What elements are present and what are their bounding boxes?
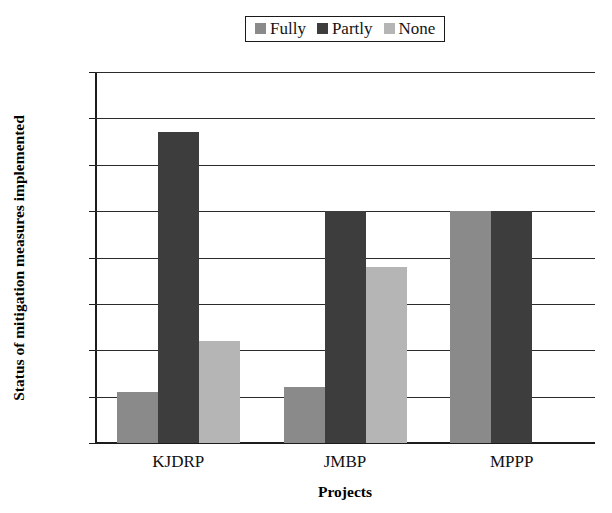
y-axis-title-text: Status of mitigation measures implemente…	[10, 115, 28, 401]
legend-entry-none: None	[384, 20, 436, 37]
y-axis-title: Status of mitigation measures implemente…	[8, 72, 30, 443]
category-label-kjdrp: KJDRP	[152, 452, 204, 472]
category-label-mppp: MPPP	[490, 452, 533, 472]
bar-chart-figure: Fully Partly None Status of mitigation m…	[0, 0, 612, 513]
y-axis-tick	[89, 443, 95, 444]
category-label-jmbp: JMBP	[324, 452, 367, 472]
bar-jmbp-none	[366, 267, 407, 443]
bar-kjdrp-none	[199, 341, 240, 443]
bars-layer	[95, 72, 595, 443]
bar-kjdrp-partly	[158, 132, 199, 443]
bar-jmbp-fully	[284, 387, 325, 443]
bar-mppp-fully	[450, 211, 491, 443]
bar-kjdrp-fully	[117, 392, 158, 443]
legend-label-fully: Fully	[270, 20, 306, 37]
legend-label-partly: Partly	[332, 20, 373, 37]
plot-area	[95, 72, 595, 443]
legend-entry-partly: Partly	[317, 20, 373, 37]
legend-entry-fully: Fully	[255, 20, 306, 37]
x-axis-title: Projects	[95, 483, 595, 501]
legend-label-none: None	[399, 20, 436, 37]
chart-legend: Fully Partly None	[245, 16, 445, 42]
legend-swatch-none	[384, 23, 395, 34]
bar-jmbp-partly	[325, 211, 366, 443]
bar-mppp-partly	[491, 211, 532, 443]
legend-swatch-fully	[255, 23, 266, 34]
legend-swatch-partly	[317, 23, 328, 34]
